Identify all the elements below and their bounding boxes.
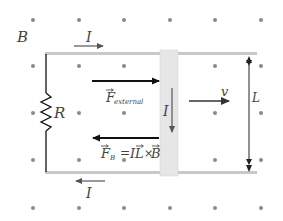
resistor-label: R xyxy=(53,104,65,122)
top-rail xyxy=(45,52,257,55)
svg-text:=: = xyxy=(120,146,130,160)
magnetic-force-label: F B = I L × B xyxy=(100,145,161,163)
velocity-label: v xyxy=(221,84,229,99)
resistor-circuit xyxy=(41,54,51,172)
svg-text:L: L xyxy=(134,146,144,161)
length-arrow-top-head xyxy=(246,56,252,63)
length-arrow-bottom-head xyxy=(246,165,252,172)
resistor-icon xyxy=(41,93,51,131)
field-label: B xyxy=(16,28,28,46)
svg-text:external: external xyxy=(114,98,143,106)
svg-text:B: B xyxy=(150,146,161,161)
magnetic-field-dots xyxy=(31,18,263,210)
external-force-label: F external xyxy=(105,89,143,107)
svg-text:B: B xyxy=(109,154,115,162)
bottom-current-label: I xyxy=(85,185,92,201)
rod-current-label: I xyxy=(162,103,169,119)
top-current-label: I xyxy=(85,29,92,45)
bottom-rail xyxy=(45,171,257,174)
length-label: L xyxy=(251,91,260,105)
motional-emf-diagram: B I I I R v L F external F B = I L × B xyxy=(0,0,283,221)
